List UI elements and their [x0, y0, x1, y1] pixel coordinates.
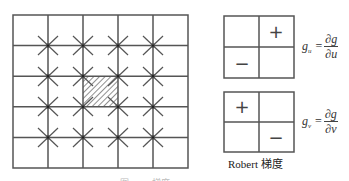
equals-sign: = — [316, 39, 323, 54]
gu-formula: gu = ∂g ∂u — [302, 33, 338, 60]
fraction-denominator: ∂v — [325, 122, 336, 135]
robert-gradient-diagram: + − + − — [0, 0, 349, 181]
minus-sign: − — [234, 53, 249, 74]
fraction-denominator: ∂u — [325, 47, 337, 60]
fraction-numerator: ∂g — [324, 33, 338, 47]
figure-caption: 图 …… 梯度 — [120, 176, 170, 181]
formula-subscript: u — [308, 47, 312, 55]
fraction: ∂g ∂v — [324, 108, 338, 135]
plus-sign: + — [234, 96, 249, 117]
plus-sign: + — [268, 21, 283, 42]
fraction: ∂g ∂u — [324, 33, 338, 60]
robert-caption: Robert 梯度 — [228, 155, 283, 171]
gv-formula: gv = ∂g ∂v — [302, 108, 338, 135]
equals-sign: = — [315, 114, 322, 129]
formula-subscript: v — [308, 122, 311, 130]
fraction-numerator: ∂g — [324, 108, 338, 122]
minus-sign: − — [268, 127, 283, 148]
